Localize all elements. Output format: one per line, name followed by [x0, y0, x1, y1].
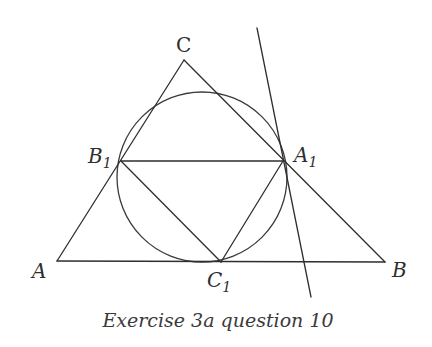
incircle	[117, 92, 287, 262]
side-b1-c1	[121, 161, 221, 262]
geometry-figure: C A B B1 A1 C1 Exercise 3a question 10	[0, 0, 432, 347]
diagram-canvas: C A B B1 A1 C1 Exercise 3a question 10	[0, 0, 432, 347]
label-b1: B1	[87, 144, 112, 171]
label-b: B	[391, 258, 407, 282]
label-c: C	[176, 33, 191, 57]
label-c1: C1	[207, 268, 231, 295]
side-a1-c1	[221, 161, 283, 262]
figure-caption: Exercise 3a question 10	[101, 309, 333, 331]
label-a: A	[30, 259, 46, 283]
label-a1: A1	[292, 143, 317, 170]
